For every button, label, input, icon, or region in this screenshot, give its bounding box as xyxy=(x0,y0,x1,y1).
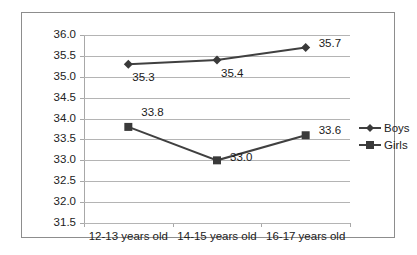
data-point-marker-square-icon[interactable] xyxy=(302,131,310,139)
legend-label-girls: Girls xyxy=(384,140,408,152)
data-point-marker-diamond-icon[interactable] xyxy=(124,60,133,69)
y-axis-tick-label: 36.0 xyxy=(54,29,76,41)
chart-frame: 36.035.535.034.534.033.533.032.532.031.5… xyxy=(21,12,395,238)
y-axis-tick-label: 32.5 xyxy=(54,175,76,187)
data-label-boys: 35.4 xyxy=(221,68,243,80)
legend-marker-diamond-icon xyxy=(358,121,382,135)
data-label-boys: 35.7 xyxy=(319,38,341,50)
legend-item-boys[interactable]: Boys xyxy=(358,121,414,138)
legend-item-girls[interactable]: Girls xyxy=(358,138,414,155)
y-axis-tick-label: 33.0 xyxy=(54,154,76,166)
legend-marker-square-icon xyxy=(358,138,382,152)
series-line-girls xyxy=(128,127,305,160)
data-point-marker-square-icon[interactable] xyxy=(124,123,132,131)
series-lines xyxy=(84,35,350,223)
legend-label-boys: Boys xyxy=(384,123,410,135)
data-label-girls: 33.6 xyxy=(319,125,341,137)
plot-area: 35.335.435.733.833.033.6 xyxy=(84,35,350,223)
y-axis-tick-label: 35.5 xyxy=(54,50,76,62)
x-axis-tick-label: 16-17 years old xyxy=(261,231,350,243)
data-point-marker-diamond-icon[interactable] xyxy=(213,56,222,65)
data-label-girls: 33.0 xyxy=(230,152,252,164)
gridline xyxy=(84,223,350,224)
y-axis-tick-label: 34.5 xyxy=(54,92,76,104)
x-axis-tick-label: 14-15 years old xyxy=(173,231,262,243)
y-axis-tick-label: 33.5 xyxy=(54,133,76,145)
data-point-marker-diamond-icon[interactable] xyxy=(301,43,310,52)
x-axis-tick-label: 12-13 years old xyxy=(84,231,173,243)
data-point-marker-square-icon[interactable] xyxy=(213,156,221,164)
data-label-boys: 35.3 xyxy=(132,72,154,84)
x-axis-tick-mark xyxy=(350,223,351,227)
data-label-girls: 33.8 xyxy=(141,107,163,119)
y-axis-tick-label: 35.0 xyxy=(54,71,76,83)
y-axis-tick-label: 32.0 xyxy=(54,196,76,208)
chart-legend: Boys Girls xyxy=(358,121,414,155)
y-axis-tick-label: 34.0 xyxy=(54,113,76,125)
y-axis-tick-label: 31.5 xyxy=(54,217,76,229)
y-axis-tick-labels: 36.035.535.034.534.033.533.032.532.031.5 xyxy=(22,13,76,237)
